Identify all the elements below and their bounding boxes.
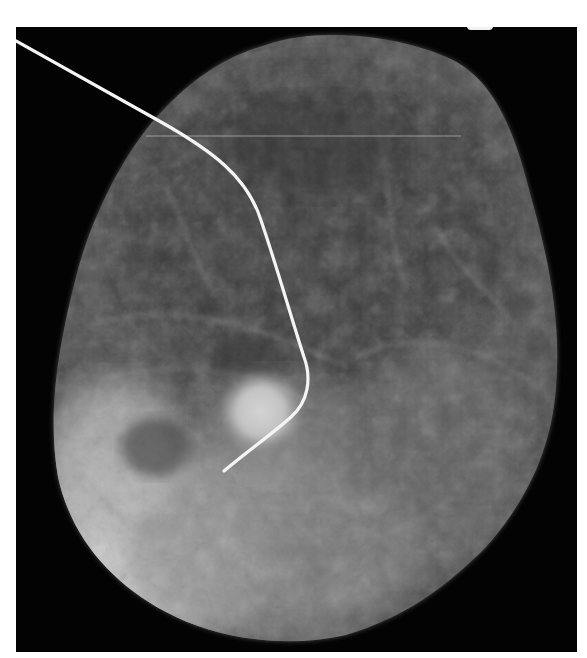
radiograph-frame <box>16 27 577 652</box>
breast-tissue <box>16 27 577 652</box>
radiograph-image <box>16 27 577 652</box>
